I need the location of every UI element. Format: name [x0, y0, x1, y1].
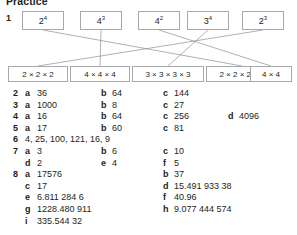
answer-value: 1228.480 911: [37, 204, 91, 214]
exponent-box-4: 34: [187, 11, 229, 30]
answer-row: e6.811 284 6f40.96: [0, 192, 297, 204]
answer-value: 3: [37, 146, 42, 156]
exponent-box-5: 23: [242, 11, 284, 30]
exponent-value: 42: [155, 15, 163, 26]
question-number: 8: [6, 169, 18, 179]
answer-value: 335.544 32: [37, 216, 82, 226]
answer-label: d: [228, 111, 234, 121]
answer-value: 4096: [239, 111, 259, 121]
answer-label: c: [25, 181, 30, 191]
answer-label: e: [101, 158, 106, 168]
answer-value: 16: [37, 111, 47, 121]
answer-value: 37: [174, 169, 184, 179]
answer-value: 4, 25, 100, 121, 16, 9: [25, 134, 110, 144]
answer-label: a: [25, 123, 30, 133]
answer-value: 10: [174, 146, 184, 156]
answer-value: 64: [112, 88, 122, 98]
answer-value: 6.811 284 6: [37, 192, 84, 202]
answers-list: 2a36b64c1443a1000b8c274a16b64c256d40965a…: [0, 88, 297, 227]
question-number: 4: [6, 111, 18, 121]
exponent-value: 43: [97, 15, 105, 26]
answer-label: c: [163, 111, 168, 121]
answer-row: i335.544 32: [0, 216, 297, 228]
connector-line-2: [100, 30, 101, 66]
question-number: 7: [6, 146, 18, 156]
answer-label: a: [25, 111, 30, 121]
answer-value: 60: [112, 123, 122, 133]
answer-label: b: [101, 123, 107, 133]
exponent-box-1: 24: [22, 11, 64, 30]
question-number: 3: [6, 100, 18, 110]
answer-label: a: [25, 169, 30, 179]
answer-value: 256: [174, 111, 189, 121]
expanded-form-box-3: 3 × 3 × 3 × 3: [132, 66, 204, 82]
exponent-box-2: 43: [80, 11, 122, 30]
exponent-value: 34: [204, 15, 212, 26]
exponent-superscript: 4: [44, 15, 47, 21]
answer-label: c: [163, 88, 168, 98]
answer-value: 15.491 933 38: [174, 181, 232, 191]
question-number: 6: [6, 134, 18, 144]
answer-value: 144: [174, 88, 189, 98]
exponent-superscript: 4: [209, 15, 212, 21]
answer-label: g: [25, 204, 31, 214]
answer-label: c: [163, 123, 168, 133]
answer-label: a: [25, 100, 30, 110]
answer-value: 27: [174, 100, 184, 110]
answer-row: 2a36b64c144: [0, 88, 297, 100]
expanded-form-box-5: 4 × 4: [250, 66, 292, 82]
answer-value: 17: [37, 123, 47, 133]
answer-value: 36: [37, 88, 47, 98]
answer-label: f: [163, 158, 166, 168]
answer-row: c17d15.491 933 38: [0, 181, 297, 193]
exponent-superscript: 3: [264, 15, 267, 21]
answer-label: i: [25, 216, 28, 226]
answer-value: 8: [112, 100, 117, 110]
expanded-form-text: 2 × 2 × 2: [22, 70, 54, 79]
answer-row: 3a1000b8c27: [0, 100, 297, 112]
answer-label: c: [163, 100, 168, 110]
answer-row: 7a3b6c10: [0, 146, 297, 158]
exponent-value: 23: [259, 15, 267, 26]
answer-row: 4a16b64c256d4096: [0, 111, 297, 123]
answer-value: 81: [174, 123, 184, 133]
expanded-form-text: 4 × 4: [262, 70, 280, 79]
question-number: 5: [6, 123, 18, 133]
answer-label: b: [101, 100, 107, 110]
answer-value: 5: [174, 158, 179, 168]
question-number: 2: [6, 88, 18, 98]
answer-value: 4: [112, 158, 117, 168]
answer-row: 64, 25, 100, 121, 16, 9: [0, 134, 297, 146]
answer-label: c: [163, 146, 168, 156]
answer-label: d: [163, 181, 169, 191]
answer-label: b: [101, 88, 107, 98]
expanded-form-box-1: 2 × 2 × 2: [8, 66, 68, 82]
exponent-superscript: 2: [160, 15, 163, 21]
answer-row: g1228.480 911h9.077 444 574: [0, 204, 297, 216]
answer-value: 6: [112, 146, 117, 156]
exponent-superscript: 3: [102, 15, 105, 21]
answer-row: d2e4f5: [0, 158, 297, 170]
answer-label: d: [25, 158, 31, 168]
answer-value: 17: [37, 181, 47, 191]
expanded-form-text: 3 × 3 × 3 × 3: [145, 70, 190, 79]
answer-key-page: Practice 1 24434234232 × 2 × 24 × 4 × 43…: [0, 0, 297, 235]
answer-label: h: [163, 204, 169, 214]
connector-line-4: [168, 30, 208, 66]
exponent-value: 24: [39, 15, 47, 26]
answer-value: 9.077 444 574: [174, 204, 232, 214]
answer-label: b: [101, 146, 107, 156]
expanded-form-box-2: 4 × 4 × 4: [70, 66, 130, 82]
answer-row: 5a17b60c81: [0, 123, 297, 135]
answer-label: a: [25, 88, 30, 98]
answer-label: a: [25, 146, 30, 156]
answer-value: 2: [37, 158, 42, 168]
answer-value: 40.96: [174, 192, 197, 202]
expanded-form-text: 4 × 4 × 4: [84, 70, 116, 79]
answer-row: 8a17576b37: [0, 169, 297, 181]
answer-label: e: [25, 192, 30, 202]
answer-value: 17576: [37, 169, 62, 179]
answer-label: f: [163, 192, 166, 202]
answer-label: b: [101, 111, 107, 121]
matching-diagram: 24434234232 × 2 × 24 × 4 × 43 × 3 × 3 × …: [0, 0, 297, 86]
